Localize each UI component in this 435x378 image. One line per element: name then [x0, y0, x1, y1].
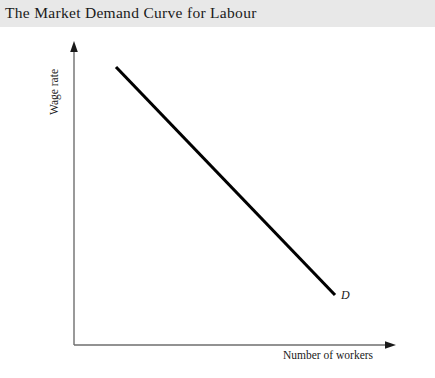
y-axis-label: Wage rate	[48, 47, 60, 137]
chart-plot-area: Wage rate Number of workers D	[0, 27, 435, 378]
figure-header-band: The Market Demand Curve for Labour	[0, 0, 435, 27]
x-axis-arrowhead	[385, 341, 396, 349]
demand-curve-label: D	[341, 288, 350, 303]
x-axis-label: Number of workers	[283, 349, 373, 361]
figure-title: The Market Demand Curve for Labour	[5, 2, 257, 24]
chart-svg	[0, 27, 435, 378]
y-axis-arrowhead	[70, 41, 78, 52]
demand-curve-line	[116, 67, 335, 295]
